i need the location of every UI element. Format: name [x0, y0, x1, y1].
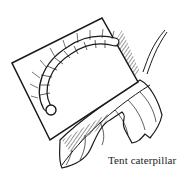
caption: Tent caterpillar — [108, 154, 176, 166]
leaf-stem — [143, 30, 167, 74]
